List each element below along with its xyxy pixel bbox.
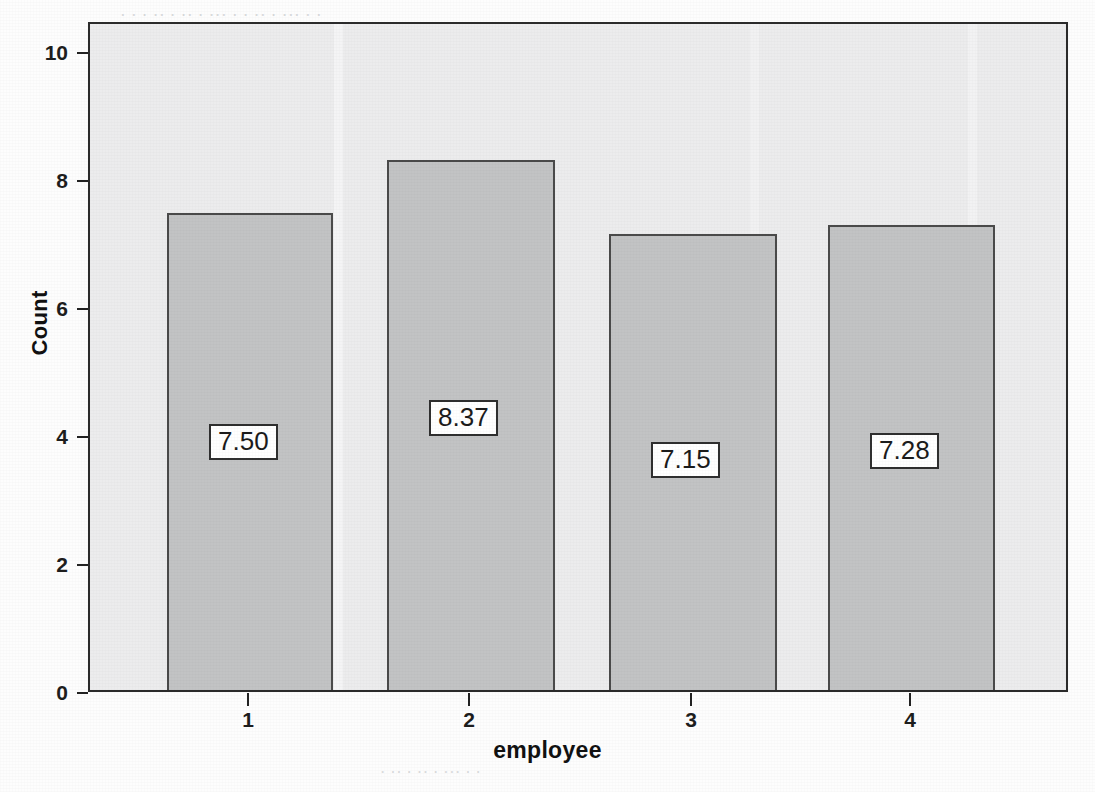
x-tick-mark-3 [690, 693, 692, 706]
x-tick-label-3: 3 [661, 708, 721, 732]
x-tick-label-2: 2 [439, 708, 499, 732]
y-tick-label-8: 8 [22, 169, 68, 193]
y-tick-mark-0 [77, 692, 88, 694]
x-tick-mark-4 [909, 693, 911, 706]
x-tick-mark-2 [468, 693, 470, 706]
y-tick-mark-6 [77, 308, 88, 310]
y-tick-label-6: 6 [22, 297, 68, 321]
bar-value-label-3: 7.15 [651, 442, 720, 478]
bar-value-label-4: 7.28 [870, 433, 939, 469]
x-tick-label-1: 1 [218, 708, 278, 732]
y-tick-mark-10 [77, 52, 88, 54]
y-tick-label-4: 4 [22, 425, 68, 449]
bar-chart: Count 10 8 6 4 2 0 7.50 8.37 7.15 7.28 1… [0, 0, 1095, 792]
bar-value-label-1: 7.50 [209, 424, 278, 460]
y-axis-label: Count [27, 263, 53, 383]
plot-area [88, 22, 1068, 692]
bar-value-label-2: 8.37 [429, 400, 498, 436]
y-tick-mark-2 [77, 564, 88, 566]
y-tick-label-0: 0 [22, 681, 68, 705]
scan-streak [334, 24, 343, 690]
y-tick-label-10: 10 [22, 41, 68, 65]
y-tick-mark-8 [77, 180, 88, 182]
y-tick-mark-4 [77, 436, 88, 438]
y-tick-label-2: 2 [22, 553, 68, 577]
x-axis-label: employee [0, 737, 1095, 764]
x-tick-label-4: 4 [880, 708, 940, 732]
x-tick-mark-1 [247, 693, 249, 706]
